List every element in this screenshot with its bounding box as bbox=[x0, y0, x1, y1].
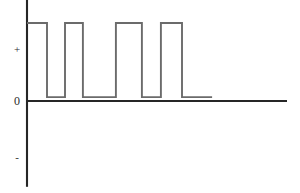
pulse-train-figure bbox=[0, 0, 300, 193]
y-axis-tick-label-zero: 0 bbox=[10, 95, 24, 107]
y-axis-tick-label-negative: - bbox=[10, 152, 24, 163]
y-axis-tick-label-positive: + bbox=[10, 44, 24, 55]
